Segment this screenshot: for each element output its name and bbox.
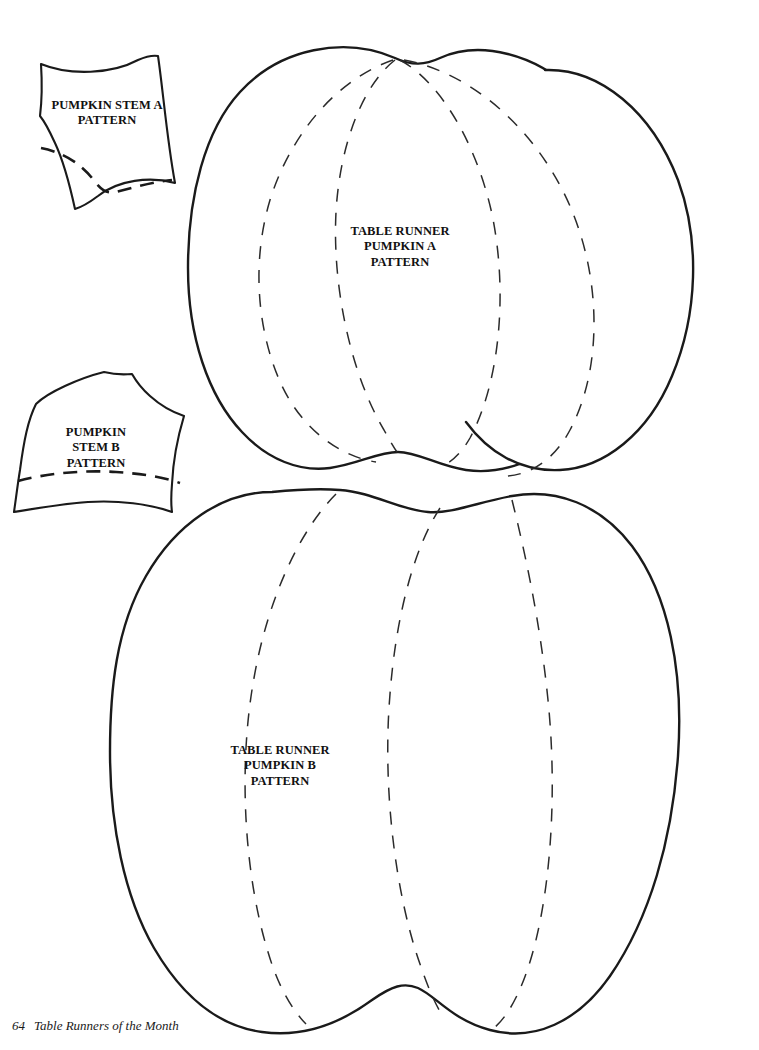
page-footer: 64Table Runners of the Month (12, 1018, 179, 1034)
pattern-page: PUMPKIN STEM A PATTERN PUMPKIN STEM B PA… (0, 0, 759, 1050)
pumpkin-b-outline (110, 489, 679, 1033)
label-table-runner-pumpkin-a: TABLE RUNNER PUMPKIN A PATTERN (320, 224, 480, 270)
footer-page-number: 64 (12, 1018, 25, 1033)
pattern-artwork (0, 0, 759, 1050)
piece-stem-a (40, 56, 175, 209)
label-pumpkin-stem-b: PUMPKIN STEM B PATTERN (30, 425, 162, 471)
label-pumpkin-stem-a: PUMPKIN STEM A PATTERN (34, 98, 180, 129)
footer-book-title: Table Runners of the Month (34, 1018, 179, 1033)
label-table-runner-pumpkin-b: TABLE RUNNER PUMPKIN B PATTERN (200, 743, 360, 789)
piece-pumpkin-b (110, 489, 679, 1033)
stem-a-outline (40, 56, 175, 209)
